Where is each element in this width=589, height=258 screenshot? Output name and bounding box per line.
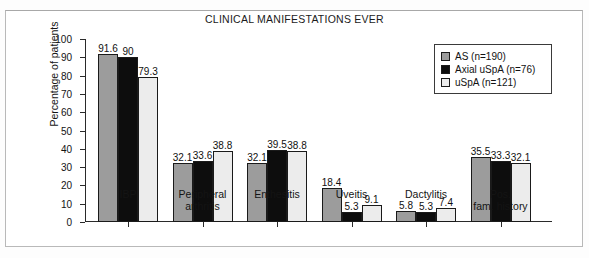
y-tick-label: 40: [61, 143, 72, 154]
x-tick-mark: [277, 222, 278, 227]
y-tick-mark: [80, 112, 85, 113]
bar[interactable]: 5.8: [396, 211, 416, 222]
bar[interactable]: 9.1: [362, 205, 382, 222]
y-tick-mark: [80, 222, 85, 223]
legend-swatch-icon: [441, 78, 450, 87]
y-tick-label: 20: [61, 180, 72, 191]
bar-value-label: 32.1: [247, 153, 266, 163]
bar-value-label: 32.1: [173, 153, 192, 163]
bar-value-label: 5.3: [419, 202, 433, 212]
legend-label: uSpA (n=121): [455, 77, 516, 88]
bar-value-label: 18.4: [322, 178, 341, 188]
bar-value-label: 79.3: [138, 67, 157, 77]
y-tick-mark: [80, 131, 85, 132]
legend-item: uSpA (n=121): [441, 76, 546, 88]
x-category-label: Pos. fam. history: [456, 189, 546, 212]
bar-value-label: 38.8: [287, 141, 306, 151]
y-tick-label: 70: [61, 88, 72, 99]
y-tick-label: 50: [61, 125, 72, 136]
x-tick-mark: [128, 222, 129, 227]
x-tick-mark: [352, 222, 353, 227]
x-tick-mark: [501, 222, 502, 227]
chart-title: CLINICAL MANIFESTATIONS EVER: [0, 13, 589, 25]
y-tick-label: 10: [61, 198, 72, 209]
y-tick-mark: [80, 94, 85, 95]
y-tick-label: 100: [55, 34, 72, 45]
bar-value-label: 39.5: [267, 140, 286, 150]
bar[interactable]: 5.3: [416, 212, 436, 222]
y-tick-mark: [80, 39, 85, 40]
legend-swatch-icon: [441, 65, 450, 74]
legend-label: Axial uSpA (n=76): [455, 64, 535, 75]
bar-value-label: 35.5: [471, 147, 490, 157]
bar-value-label: 91.6: [98, 44, 117, 54]
bar-value-label: 38.8: [213, 141, 232, 151]
y-tick-label: 90: [61, 52, 72, 63]
bar-value-label: 33.3: [491, 151, 510, 161]
figure-container: CLINICAL MANIFESTATIONS EVER Percentage …: [0, 0, 589, 258]
bar[interactable]: 39.5: [267, 150, 287, 222]
y-axis-tick-labels: 0102030405060708090100: [0, 39, 80, 222]
legend-label: AS (n=190): [455, 51, 506, 62]
x-tick-mark: [426, 222, 427, 227]
chart-legend: AS (n=190) Axial uSpA (n=76) uSpA (n=121…: [434, 44, 552, 94]
y-tick-mark: [80, 76, 85, 77]
y-tick-mark: [80, 149, 85, 150]
bar-value-label: 5.8: [399, 201, 413, 211]
bar[interactable]: 7.4: [436, 208, 456, 222]
legend-swatch-icon: [441, 52, 450, 61]
y-tick-label: 0: [66, 217, 72, 228]
y-tick-mark: [80, 57, 85, 58]
bar[interactable]: 5.3: [342, 212, 362, 222]
bar-value-label: 5.3: [345, 202, 359, 212]
bar-value-label: 90: [122, 47, 133, 57]
y-tick-mark: [80, 185, 85, 186]
bar-value-label: 32.1: [511, 153, 530, 163]
legend-item: Axial uSpA (n=76): [441, 63, 546, 75]
y-tick-label: 60: [61, 107, 72, 118]
x-tick-mark: [203, 222, 204, 227]
y-tick-mark: [80, 204, 85, 205]
bar-value-label: 33.6: [193, 151, 212, 161]
y-tick-label: 30: [61, 162, 72, 173]
y-tick-mark: [80, 167, 85, 168]
y-tick-label: 80: [61, 70, 72, 81]
legend-item: AS (n=190): [441, 50, 546, 62]
bar[interactable]: 38.8: [287, 151, 307, 222]
